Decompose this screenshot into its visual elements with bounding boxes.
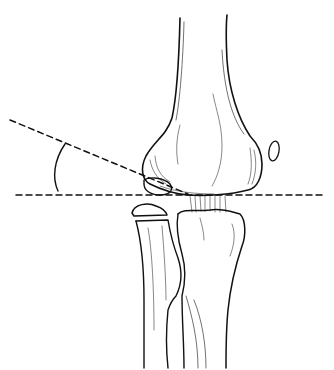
ulna	[177, 209, 245, 368]
radial-head-fragment	[132, 204, 167, 216]
oblique-reference-line	[10, 120, 188, 194]
humerus	[143, 15, 262, 195]
radius	[136, 220, 181, 368]
medial-epicondyle-fragment	[267, 140, 280, 161]
angle-arc	[55, 144, 65, 191]
elbow-diagram	[0, 0, 334, 370]
